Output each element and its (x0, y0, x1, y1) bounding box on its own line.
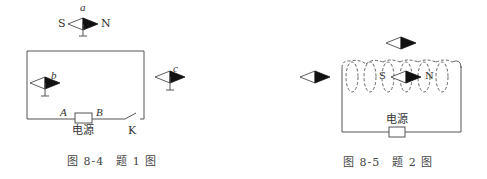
compass-c-label: c (173, 63, 178, 74)
compass-c (155, 71, 185, 90)
compass-top (386, 37, 416, 49)
switch-k-label: K (128, 125, 136, 136)
figure2-caption: 图 8-5 题 2 图 (343, 153, 433, 169)
terminal-b-label: B (96, 107, 103, 118)
inner-south-label: S (379, 71, 386, 81)
compass-a-south-label: S (58, 18, 66, 29)
compass-a-north-label: N (101, 18, 111, 29)
inner-north-label: N (425, 71, 434, 81)
figure1-caption: 图 8-4 题 1 图 (67, 152, 157, 168)
terminal-a-label: A (60, 107, 67, 118)
power-label-1: 电源 (72, 125, 94, 136)
compass-left (300, 71, 330, 83)
power-label-2: 电源 (386, 114, 408, 125)
compass-a-label: a (80, 2, 86, 13)
compass-a (68, 18, 98, 36)
power-source-1 (75, 113, 92, 123)
compass-b-label: b (51, 70, 57, 81)
compass-inner (391, 71, 421, 83)
power-source-2 (389, 127, 405, 137)
switch-k (125, 113, 136, 119)
